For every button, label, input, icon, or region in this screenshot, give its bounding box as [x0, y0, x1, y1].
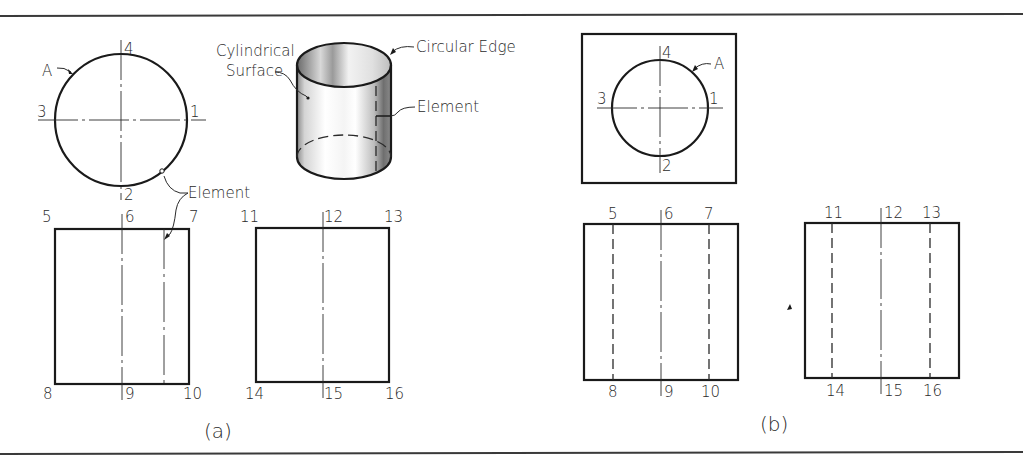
side-view-outline	[805, 223, 959, 378]
surface-label-line2: Surface	[226, 62, 283, 80]
point-12-label: 12	[884, 204, 903, 222]
curve-a-label: A	[42, 62, 52, 80]
point-13-label: 13	[922, 204, 941, 222]
stray-ink-mark	[787, 304, 792, 310]
element-point-marker	[160, 169, 164, 173]
cylindrical-label-line1: Cylindrical	[216, 42, 295, 60]
point-9-label: 9	[125, 385, 135, 403]
point-16-label: 16	[385, 385, 404, 403]
part-b-side-view: 11 12 13 14 15 16	[805, 204, 959, 400]
point-11-label: 11	[824, 204, 843, 222]
surface-leader-dot	[306, 96, 309, 99]
circular-edge-label: Circular Edge	[416, 38, 516, 56]
point-3-label: 3	[37, 103, 47, 121]
point-8-label: 8	[43, 385, 53, 403]
point-10-label: 10	[701, 383, 720, 401]
side-view-outline	[256, 228, 389, 382]
element-callout-label: Element	[188, 184, 250, 202]
point-4-label: 4	[124, 40, 134, 58]
point-4-label: 4	[662, 44, 672, 62]
cylinder-views-figure: 4 3 1 2 A Element Cylindrical Surface	[0, 0, 1023, 468]
point-2-label: 2	[662, 157, 672, 175]
circular-edge-arrowhead	[390, 48, 396, 55]
top-frame-line	[0, 14, 1023, 16]
point-12-label: 12	[324, 208, 343, 226]
element-label: Element	[417, 98, 479, 116]
point-14-label: 14	[245, 385, 264, 403]
point-10-label: 10	[183, 385, 202, 403]
point-2-label: 2	[124, 186, 134, 204]
point-11-label: 11	[240, 208, 259, 226]
curve-a-arrowhead	[68, 69, 73, 74]
element-callout-leader	[164, 176, 188, 237]
part-a: 4 3 1 2 A Element Cylindrical Surface	[37, 38, 516, 443]
part-b-front-view: 5 6 7 8 9 10	[584, 205, 738, 401]
point-6-label: 6	[125, 208, 135, 226]
point-9-label: 9	[664, 383, 674, 401]
part-b: 4 3 1 2 A 5 6 7 8 9 10	[582, 34, 959, 436]
point-7-label: 7	[704, 205, 714, 223]
point-14-label: 14	[826, 382, 845, 400]
point-15-label: 15	[884, 382, 903, 400]
part-b-caption: (b)	[760, 412, 788, 436]
point-5-label: 5	[42, 208, 52, 226]
part-a-caption: (a)	[204, 419, 232, 443]
bottom-frame-line	[0, 452, 1023, 454]
part-a-front-view: 5 6 7 8 9 10	[42, 208, 202, 403]
top-view-square	[582, 34, 736, 183]
cylinder-pictorial	[297, 43, 391, 179]
part-b-top-view: 4 3 1 2 A	[582, 34, 736, 183]
curve-a-arrowhead	[692, 65, 698, 72]
point-1-label: 1	[709, 90, 719, 108]
point-5-label: 5	[608, 205, 618, 223]
element-leader	[391, 107, 415, 116]
point-15-label: 15	[324, 385, 343, 403]
point-16-label: 16	[923, 382, 942, 400]
part-a-side-view: 11 12 13 14 15 16	[240, 208, 404, 403]
part-a-top-view: 4 3 1 2 A	[37, 40, 206, 204]
point-1-label: 1	[190, 103, 200, 121]
point-8-label: 8	[608, 383, 618, 401]
curve-a-label: A	[714, 55, 724, 73]
point-13-label: 13	[384, 208, 403, 226]
point-7-label: 7	[189, 208, 199, 226]
point-6-label: 6	[664, 205, 674, 223]
point-3-label: 3	[597, 90, 607, 108]
